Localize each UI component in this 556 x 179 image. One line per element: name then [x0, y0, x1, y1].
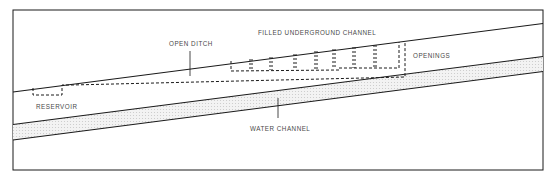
label-openings: OPENINGS — [413, 52, 450, 59]
label-open-ditch: OPEN DITCH — [169, 40, 213, 47]
label-reservoir: RESERVOIR — [36, 103, 77, 110]
openings-shafts — [250, 45, 376, 70]
label-filled-underground-channel: FILLED UNDERGROUND CHANNEL — [258, 29, 376, 36]
label-water-channel: WATER CHANNEL — [250, 125, 310, 132]
water-system-cross-section-diagram: OPEN DITCH FILLED UNDERGROUND CHANNEL OP… — [0, 0, 556, 179]
